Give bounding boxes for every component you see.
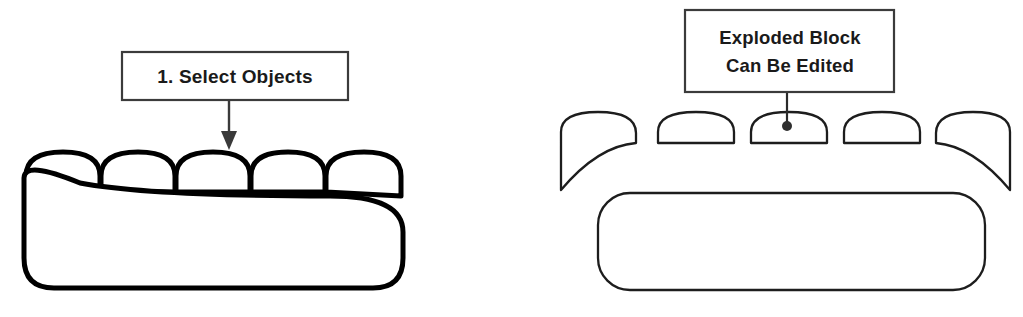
- exploded-cushion-2: [658, 112, 734, 143]
- callout-arrow-left: [221, 100, 237, 150]
- exploded-cushion-4: [844, 112, 920, 143]
- leader-dot-icon: [782, 121, 792, 131]
- callout-right-line2: Can Be Edited: [726, 55, 854, 76]
- exploded-cushion-arm-right: [936, 112, 1010, 190]
- callout-select-objects[interactable]: 1. Select Objects: [122, 52, 348, 100]
- cushion-arch-5: [326, 152, 401, 196]
- figure-canvas: 1. Select Objects: [0, 0, 1023, 317]
- assembled-block-drawing: [24, 152, 403, 288]
- callout-exploded-block[interactable]: Exploded Block Can Be Edited: [685, 10, 894, 92]
- exploded-cushion-arm-left: [561, 112, 636, 190]
- diagram-root: 1. Select Objects: [0, 0, 1023, 317]
- right-panel: Exploded Block Can Be Edited: [561, 10, 1010, 290]
- left-panel: 1. Select Objects: [24, 52, 403, 288]
- cushion-arch-4: [251, 152, 325, 192]
- exploded-base: [598, 193, 985, 290]
- callout-right-line1: Exploded Block: [719, 27, 861, 48]
- arrow-head-icon: [221, 131, 237, 150]
- cushion-arch-3: [176, 152, 250, 192]
- callout-box-right[interactable]: [685, 10, 894, 92]
- callout-left-line1: 1. Select Objects: [157, 66, 312, 87]
- exploded-block-drawing: [561, 112, 1010, 290]
